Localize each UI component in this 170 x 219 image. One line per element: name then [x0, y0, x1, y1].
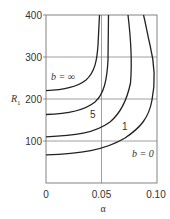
x-tick-010: 0.10: [146, 189, 166, 200]
annotations: b = ∞ 5 1 b = 0: [51, 71, 154, 159]
curves: [46, 15, 154, 155]
y-tick-400: 400: [25, 10, 42, 21]
curve-b-0: [46, 15, 154, 155]
chart: 400 300 200 100 R1 0 0.05 0.10 α b = ∞ 5…: [0, 0, 170, 219]
label-b-infinity: b = ∞: [51, 71, 75, 82]
label-b-0: b = 0: [132, 148, 154, 159]
y-axis-label: R1: [10, 93, 21, 107]
x-axis-label: α: [100, 203, 106, 214]
label-b-5: 5: [90, 109, 96, 120]
y-tick-200: 200: [25, 94, 42, 105]
y-axis: 400 300 200 100 R1: [10, 10, 46, 147]
x-tick-005: 0.05: [92, 189, 112, 200]
y-tick-300: 300: [25, 52, 42, 63]
x-axis: 0 0.05 0.10 α: [43, 189, 166, 214]
label-b-1: 1: [122, 121, 128, 132]
x-tick-0: 0: [43, 189, 49, 200]
y-tick-100: 100: [25, 136, 42, 147]
